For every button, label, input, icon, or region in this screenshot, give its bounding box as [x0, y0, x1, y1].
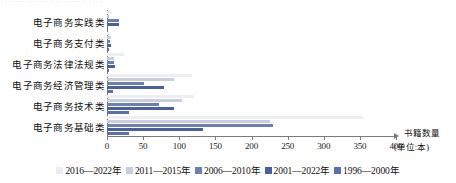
bar: [107, 40, 110, 43]
legend-swatch-icon: [334, 167, 341, 174]
bar: [107, 57, 114, 60]
legend-label: 1996—2000年: [343, 163, 400, 177]
bar: [107, 90, 113, 93]
bar: [107, 11, 111, 14]
bar: [107, 48, 109, 51]
x-axis-tick: [288, 136, 289, 140]
x-axis-tick-label: 150: [209, 141, 222, 151]
x-axis-tick: [215, 136, 216, 140]
bar: [107, 132, 129, 135]
x-axis-tick-label: 200: [245, 141, 258, 151]
x-axis-tick: [143, 136, 144, 140]
bar: [107, 111, 129, 114]
legend-item[interactable]: 1996—2000年: [334, 163, 400, 177]
legend: 2016—2022年2011—2015年2006—2010年2001—2022年…: [0, 163, 456, 177]
x-axis-tick-label: 350: [353, 141, 366, 151]
bar: [107, 103, 159, 106]
bar: [107, 99, 182, 102]
x-axis-tick: [324, 136, 325, 140]
legend-swatch-icon: [126, 167, 133, 174]
x-axis-tick-label: 50: [139, 141, 148, 151]
bars-area: [107, 10, 396, 136]
bar: [107, 36, 111, 39]
bar: [107, 61, 114, 64]
bar: [107, 95, 194, 98]
top-artifact-strip: · · ·· ··· ·· · ·· ··· ·· ·· ··· ·· · ··…: [0, 0, 456, 7]
bar: [107, 32, 110, 35]
legend-swatch-icon: [56, 167, 63, 174]
bar: [107, 65, 115, 68]
bar: [107, 74, 192, 77]
bar: [107, 120, 270, 123]
bar: [107, 124, 273, 127]
x-axis-tick-label: 100: [173, 141, 186, 151]
x-axis-tick: [252, 136, 253, 140]
bar: [107, 19, 119, 22]
y-axis-category-label: 电子商务基础类: [0, 120, 105, 134]
bar: [107, 78, 174, 81]
bar: [107, 44, 111, 47]
bar: [107, 107, 174, 110]
bar: [107, 53, 124, 56]
legend-label: 2016—2022年: [65, 163, 122, 177]
bar: [107, 15, 109, 18]
top-artifact-text: · · ·· ··· ·· · ·· ··· ·· ·· ··· ·· · ··…: [0, 0, 103, 6]
legend-item[interactable]: 2016—2022年: [56, 163, 122, 177]
legend-label: 2011—2015年: [135, 163, 191, 177]
legend-item[interactable]: 2006—2010年: [195, 163, 261, 177]
legend-swatch-icon: [265, 167, 272, 174]
x-axis-tick-label: 250: [281, 141, 294, 151]
x-axis-tick-label: 300: [317, 141, 330, 151]
bar: [107, 128, 203, 131]
x-axis-tick: [179, 136, 180, 140]
legend-item[interactable]: 2001—2022年: [265, 163, 331, 177]
x-axis-title-line1: 书籍数量: [404, 126, 440, 138]
legend-label: 2001—2022年: [274, 163, 331, 177]
legend-label: 2006—2010年: [204, 163, 261, 177]
x-axis-tick-label: 0: [105, 141, 109, 151]
x-axis-title-line2: (单位:本): [394, 140, 429, 152]
y-axis-category-label: 电子商务法律法规类: [0, 57, 105, 71]
x-axis-tick: [360, 136, 361, 140]
y-axis-category-label: 电子商务经济管理类: [0, 78, 105, 92]
bar: [107, 86, 164, 89]
x-axis-tick: [107, 136, 108, 140]
bar: [107, 82, 144, 85]
bar: [107, 116, 363, 119]
legend-swatch-icon: [195, 167, 202, 174]
legend-item[interactable]: 2011—2015年: [126, 163, 191, 177]
y-axis-category-label: 电子商务实践类: [0, 15, 105, 29]
bar: [107, 23, 119, 26]
bar: [107, 27, 108, 30]
y-axis-category-label: 电子商务支付类: [0, 36, 105, 50]
bar-chart: · · ·· ··· ·· · ·· ··· ·· ·· ··· ·· · ··…: [0, 0, 456, 183]
y-axis-category-label: 电子商务技术类: [0, 99, 105, 113]
bar: [107, 69, 109, 72]
